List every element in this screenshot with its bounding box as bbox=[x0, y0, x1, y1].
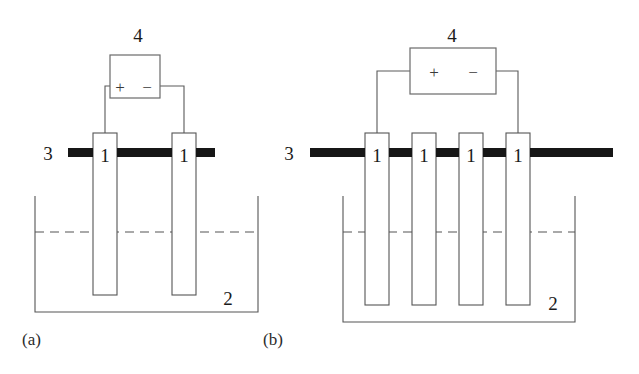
label-electrode-b-2: 1 bbox=[419, 145, 429, 166]
busbar-segment-b-4 bbox=[483, 148, 506, 157]
busbar-segment-a-right bbox=[196, 148, 215, 157]
label-busbar-a: 3 bbox=[43, 143, 53, 164]
busbar-segment-a-mid bbox=[117, 148, 172, 157]
label-electrode-b-4: 1 bbox=[513, 145, 523, 166]
figure-electrochemical-cells: 4 + − 3 2 1 1 (a) bbox=[0, 0, 639, 374]
label-supply-b: 4 bbox=[447, 25, 457, 46]
label-electrode-b-1: 1 bbox=[372, 145, 382, 166]
panel-a: 4 + − 3 2 1 1 (a) bbox=[22, 25, 258, 349]
diagram-canvas: 4 + − 3 2 1 1 (a) bbox=[0, 0, 639, 374]
label-plus-b: + bbox=[429, 63, 439, 82]
label-supply-a: 4 bbox=[133, 25, 143, 46]
label-minus-b: − bbox=[468, 63, 478, 82]
wire-negative-a bbox=[160, 86, 184, 133]
panel-caption-b: (b) bbox=[263, 330, 283, 349]
label-electrode-b-3: 1 bbox=[466, 145, 476, 166]
wire-negative-b bbox=[496, 71, 518, 133]
label-electrode-a-2: 1 bbox=[179, 145, 189, 166]
busbar-segment-b-5 bbox=[530, 148, 613, 157]
busbar-segment-b-3 bbox=[436, 148, 459, 157]
panel-caption-a: (a) bbox=[22, 330, 41, 349]
label-tank-b: 2 bbox=[548, 293, 558, 314]
label-minus-a: − bbox=[142, 78, 152, 97]
power-supply-box-b bbox=[410, 48, 496, 94]
label-electrode-a-1: 1 bbox=[100, 145, 110, 166]
busbar-segment-b-1 bbox=[310, 148, 365, 157]
busbar-segment-b-2 bbox=[389, 148, 412, 157]
wire-positive-b bbox=[377, 71, 410, 133]
label-plus-a: + bbox=[115, 78, 125, 97]
label-tank-a: 2 bbox=[223, 288, 233, 309]
panel-b: 4 + − 3 2 1 1 1 1 (b) bbox=[263, 25, 613, 349]
wire-positive-a bbox=[105, 86, 110, 133]
label-busbar-b: 3 bbox=[284, 143, 294, 164]
busbar-segment-a-left bbox=[68, 148, 93, 157]
